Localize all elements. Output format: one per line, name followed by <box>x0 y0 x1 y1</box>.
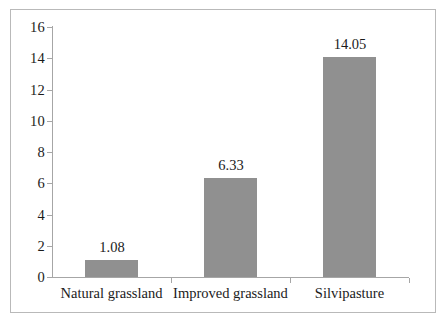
bar <box>85 260 138 277</box>
y-axis-tick-label: 16 <box>3 20 45 35</box>
x-axis-category-label: Natural grassland <box>52 286 171 302</box>
y-axis-tick-label: 8 <box>3 145 45 160</box>
plot-area: 0246810121416 1.086.3314.05 Natural gras… <box>0 0 447 323</box>
bar <box>204 178 257 277</box>
y-axis-tick <box>47 215 52 216</box>
y-axis-tick-label: 10 <box>3 114 45 129</box>
y-axis-tick <box>47 121 52 122</box>
bar-value-label: 6.33 <box>191 158 271 173</box>
x-axis-tick <box>290 278 291 283</box>
bar-value-label: 14.05 <box>310 37 390 52</box>
x-axis-tick <box>171 278 172 283</box>
y-axis-tick-label: 2 <box>3 239 45 254</box>
x-axis-tick <box>409 278 410 283</box>
chart-figure: 0246810121416 1.086.3314.05 Natural gras… <box>0 0 447 323</box>
y-axis-line <box>52 26 53 278</box>
y-axis-tick <box>47 152 52 153</box>
x-axis-line <box>52 277 409 278</box>
y-axis-tick <box>47 183 52 184</box>
x-axis-category-label: Silvipasture <box>290 286 409 302</box>
y-axis-tick <box>47 27 52 28</box>
y-axis-tick <box>47 277 52 278</box>
bar-value-label: 1.08 <box>72 240 152 255</box>
y-axis-tick <box>47 90 52 91</box>
y-axis-tick-label: 14 <box>3 51 45 66</box>
y-axis-tick-label: 6 <box>3 176 45 191</box>
y-axis-tick-label: 12 <box>3 83 45 98</box>
x-axis-category-label: Improved grassland <box>171 286 290 302</box>
y-axis-tick <box>47 58 52 59</box>
y-axis-tick-label: 0 <box>3 270 45 285</box>
bar <box>323 57 376 277</box>
y-axis-tick-label: 4 <box>3 208 45 223</box>
y-axis-tick <box>47 246 52 247</box>
